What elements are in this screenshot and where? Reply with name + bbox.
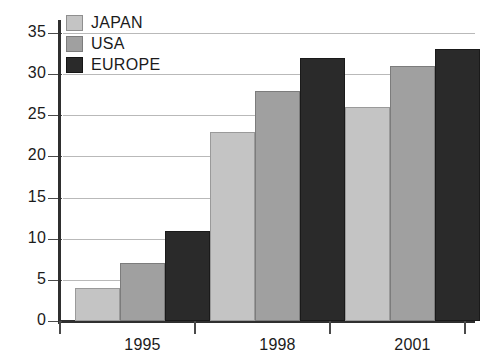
x-axis-tick bbox=[329, 321, 331, 334]
x-axis-tick bbox=[59, 321, 61, 334]
bar-chart: 05101520253035 199519982001 JAPANUSAEURO… bbox=[0, 0, 492, 359]
legend-label-usa: USA bbox=[91, 35, 125, 53]
y-axis-tick-label: 25 bbox=[0, 105, 46, 123]
y-axis-tick-label: 30 bbox=[0, 64, 46, 82]
x-axis-tick bbox=[464, 321, 466, 334]
legend-item-usa: USA bbox=[66, 34, 160, 54]
legend-item-europe: EUROPE bbox=[66, 55, 160, 75]
legend-label-japan: JAPAN bbox=[91, 14, 143, 32]
plot-area: 05101520253035 199519982001 JAPANUSAEURO… bbox=[0, 0, 492, 359]
y-axis-tick-label: 10 bbox=[0, 229, 46, 247]
bar-europe-2001 bbox=[435, 49, 480, 321]
x-axis-tick-label-1995: 1995 bbox=[98, 336, 188, 354]
legend-item-japan: JAPAN bbox=[66, 13, 160, 33]
legend-label-europe: EUROPE bbox=[91, 56, 160, 74]
x-axis-tick-label-1998: 1998 bbox=[233, 336, 323, 354]
legend: JAPANUSAEUROPE bbox=[66, 13, 160, 76]
y-axis-tick-label: 15 bbox=[0, 188, 46, 206]
legend-swatch-usa bbox=[66, 36, 83, 52]
legend-swatch-japan bbox=[66, 15, 83, 31]
bar-usa-1998 bbox=[255, 91, 300, 321]
bar-japan-1998 bbox=[210, 132, 255, 321]
bar-japan-1995 bbox=[75, 288, 120, 321]
x-axis-tick-label-2001: 2001 bbox=[368, 336, 458, 354]
y-axis-tick-label: 35 bbox=[0, 23, 46, 41]
legend-swatch-europe bbox=[66, 57, 83, 73]
y-axis-tick-label: 5 bbox=[0, 270, 46, 288]
x-axis-tick bbox=[194, 321, 196, 334]
bar-usa-2001 bbox=[390, 66, 435, 321]
bar-europe-1998 bbox=[300, 58, 345, 321]
y-axis-tick-label: 20 bbox=[0, 146, 46, 164]
bar-usa-1995 bbox=[120, 263, 165, 321]
bar-japan-2001 bbox=[345, 107, 390, 321]
y-axis-tick-label: 0 bbox=[0, 311, 46, 329]
bar-europe-1995 bbox=[165, 231, 210, 322]
y-axis-spine bbox=[58, 20, 61, 324]
